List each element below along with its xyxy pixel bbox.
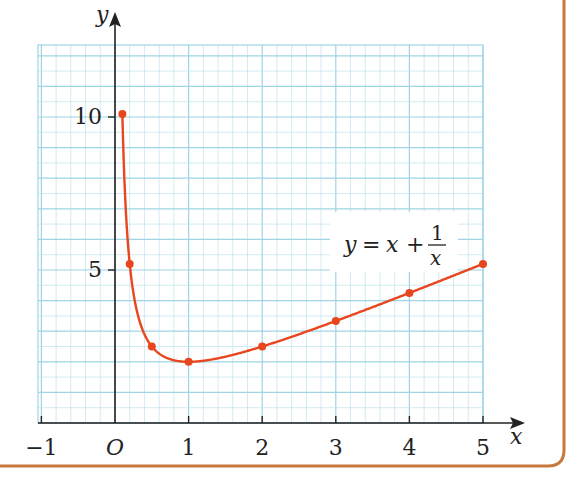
x-tick-label: 1 bbox=[182, 435, 196, 460]
x-tick-label: 2 bbox=[255, 435, 269, 460]
data-point bbox=[479, 260, 487, 268]
svg-text:1: 1 bbox=[431, 221, 444, 245]
x-tick-label: 3 bbox=[329, 435, 343, 460]
svg-text:x: x bbox=[430, 246, 441, 270]
frame-border bbox=[0, 0, 564, 466]
data-point bbox=[332, 317, 340, 325]
chart-figure: −112345510 y x O y = x + 1 x bbox=[0, 0, 572, 490]
y-tick-label: 5 bbox=[88, 257, 102, 282]
data-point bbox=[118, 110, 126, 118]
data-point bbox=[126, 260, 134, 268]
ticks: −112345510 bbox=[25, 104, 490, 460]
x-tick-label: −1 bbox=[25, 435, 57, 460]
data-point bbox=[258, 343, 266, 351]
x-tick-label: 4 bbox=[402, 435, 416, 460]
x-axis-label: x bbox=[510, 424, 523, 449]
x-tick-label: 5 bbox=[476, 435, 490, 460]
data-point bbox=[148, 343, 156, 351]
data-point bbox=[405, 289, 413, 297]
data-point bbox=[185, 358, 193, 366]
origin-label: O bbox=[106, 435, 124, 460]
svg-text:x: x bbox=[386, 232, 399, 257]
svg-text:+: + bbox=[406, 232, 424, 257]
svg-text:y: y bbox=[343, 232, 357, 257]
y-tick-label: 10 bbox=[74, 104, 102, 129]
svg-text:=: = bbox=[362, 232, 380, 257]
y-axis-label: y bbox=[95, 2, 109, 27]
